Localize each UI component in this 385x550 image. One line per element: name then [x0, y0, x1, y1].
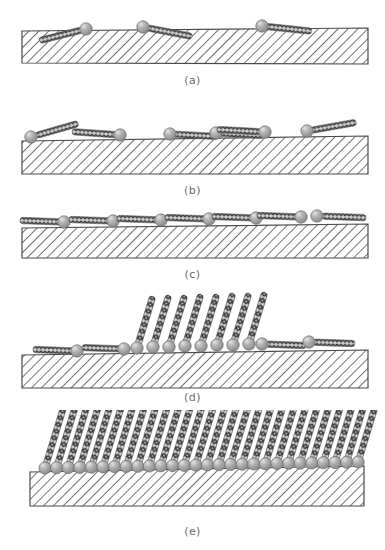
head-group	[213, 459, 225, 471]
substrate-c	[22, 224, 368, 258]
head-group	[329, 456, 341, 468]
head-group	[317, 457, 329, 469]
panel-label-b: (b)	[0, 184, 385, 197]
panel-label-e: (e)	[0, 525, 385, 538]
head-group	[155, 460, 167, 472]
head-group	[51, 462, 63, 474]
panel-label-a: (a)	[0, 74, 385, 87]
head-group	[143, 460, 155, 472]
panel-b: (b)	[0, 105, 385, 210]
head-group	[74, 461, 86, 473]
head-group	[190, 459, 202, 471]
head-group	[341, 456, 353, 468]
head-group	[225, 458, 237, 470]
head-group	[109, 461, 121, 473]
head-group	[85, 461, 97, 473]
panel-a: (a)	[0, 0, 385, 100]
head-group	[248, 458, 260, 470]
head-group	[283, 457, 295, 469]
head-group	[132, 460, 144, 472]
head-group	[62, 461, 74, 473]
panel-e: (e)	[0, 410, 385, 550]
panel-d: (d)	[0, 290, 385, 410]
head-group	[236, 458, 248, 470]
head-group	[306, 457, 318, 469]
substrate-b	[22, 136, 368, 174]
standing-island-d	[131, 291, 268, 354]
head-group	[352, 456, 364, 468]
panel-label-c: (c)	[0, 268, 385, 281]
panel-label-d: (d)	[0, 391, 385, 404]
head-group	[294, 457, 306, 469]
head-group	[178, 459, 190, 471]
head-group	[97, 461, 109, 473]
standing-chains-e	[43, 410, 380, 467]
sam-formation-figure: (a)	[0, 0, 385, 550]
panel-c: (c)	[0, 205, 385, 290]
head-group	[120, 460, 132, 472]
head-group	[201, 459, 213, 471]
head-group	[167, 459, 179, 471]
head-group	[39, 462, 51, 474]
head-group	[271, 457, 283, 469]
head-group	[259, 458, 271, 470]
